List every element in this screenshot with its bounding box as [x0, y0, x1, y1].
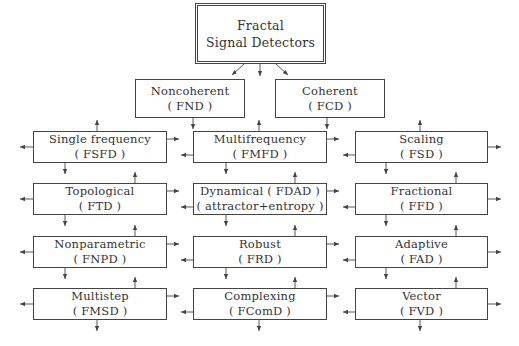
- node-dynamical: Dynamical ( FDAD ) ( attractor+entropy ): [193, 183, 327, 215]
- node-label: Complexing: [224, 289, 295, 304]
- node-label: Noncoherent: [151, 84, 230, 99]
- node-scaling: Scaling ( FSD ): [355, 131, 488, 163]
- node-multifrequency: Multifrequency ( FMFD ): [193, 131, 327, 163]
- node-topological: Topological ( FTD ): [33, 183, 167, 215]
- node-label: Fractional: [391, 184, 453, 199]
- node-abbrev: ( attractor+entropy ): [196, 199, 323, 214]
- node-adaptive: Adaptive ( FAD ): [355, 236, 488, 268]
- node-label: Coherent: [302, 84, 358, 99]
- node-label: Dynamical ( FDAD ): [200, 184, 320, 199]
- node-robust: Robust ( FRD ): [193, 236, 327, 268]
- node-abbrev: ( FND ): [168, 99, 213, 114]
- root-line1: Fractal: [237, 17, 284, 34]
- node-abbrev: ( FRD ): [238, 252, 282, 267]
- node-multistep: Multistep ( FMSD ): [33, 288, 167, 320]
- node-abbrev: ( FComD ): [229, 304, 291, 319]
- node-label: Vector: [402, 289, 441, 304]
- node-abbrev: ( FMFD ): [233, 147, 288, 162]
- node-abbrev: ( FCD ): [308, 99, 352, 114]
- node-abbrev: ( FVD ): [400, 304, 443, 319]
- node-label: Multifrequency: [214, 132, 306, 147]
- node-label: Topological: [66, 184, 135, 199]
- node-label: Nonparametric: [54, 237, 146, 252]
- node-single-frequency: Single frequency ( FSFD ): [33, 131, 167, 163]
- node-complexing: Complexing ( FComD ): [193, 288, 327, 320]
- node-abbrev: ( FAD ): [400, 252, 442, 267]
- node-abbrev: ( FNPD ): [74, 252, 127, 267]
- root-line2: Signal Detectors: [206, 34, 315, 51]
- root-node-fractal-signal-detectors: Fractal Signal Detectors: [195, 3, 326, 64]
- node-label: Adaptive: [395, 237, 448, 252]
- node-label: Robust: [239, 237, 281, 252]
- node-abbrev: ( FSFD ): [75, 147, 126, 162]
- node-nonparametric: Nonparametric ( FNPD ): [33, 236, 167, 268]
- node-coherent: Coherent ( FCD ): [275, 79, 385, 118]
- node-label: Multistep: [71, 289, 129, 304]
- node-abbrev: ( FSD ): [400, 147, 443, 162]
- node-abbrev: ( FFD ): [400, 199, 443, 214]
- node-abbrev: ( FMSD ): [73, 304, 128, 319]
- node-noncoherent: Noncoherent ( FND ): [135, 79, 245, 118]
- node-label: Scaling: [399, 132, 444, 147]
- node-vector: Vector ( FVD ): [355, 288, 488, 320]
- node-abbrev: ( FTD ): [79, 199, 122, 214]
- node-label: Single frequency: [49, 132, 151, 147]
- node-fractional: Fractional ( FFD ): [355, 183, 488, 215]
